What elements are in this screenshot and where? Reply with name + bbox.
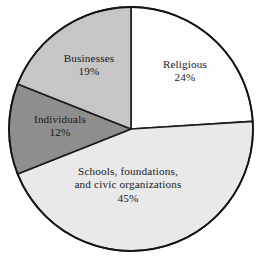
pie-chart: Religious 24% Businesses 19% Individuals…: [0, 0, 261, 263]
pie-label-individuals-value: 12%: [14, 126, 106, 139]
pie-label-schools-foundations-civic: Schools, foundations, and civic organiza…: [44, 165, 212, 205]
pie-label-individuals: Individuals 12%: [14, 113, 106, 140]
pie-label-individuals-name: Individuals: [14, 113, 106, 126]
pie-label-religious: Religious 24%: [143, 58, 227, 85]
pie-label-businesses-name: Businesses: [44, 52, 134, 65]
pie-label-schools-name-line2: and civic organizations: [44, 178, 212, 191]
pie-label-religious-value: 24%: [143, 71, 227, 84]
pie-label-businesses-value: 19%: [44, 65, 134, 78]
pie-label-schools-value: 45%: [44, 192, 212, 205]
pie-label-businesses: Businesses 19%: [44, 52, 134, 79]
pie-label-religious-name: Religious: [143, 58, 227, 71]
pie-label-schools-name-line1: Schools, foundations,: [44, 165, 212, 178]
